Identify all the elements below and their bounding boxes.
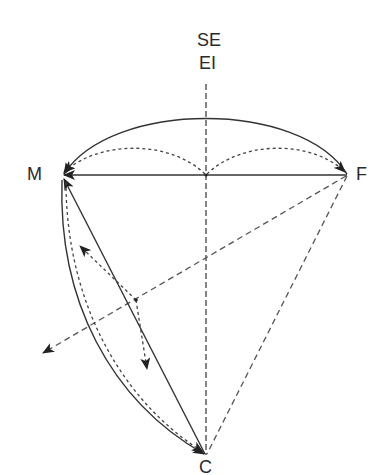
dotted-p-to-upper-left	[80, 246, 136, 300]
label-se: SE	[197, 31, 221, 49]
point-o	[204, 173, 207, 176]
dashed-f-to-c	[207, 176, 347, 454]
point-p	[134, 298, 138, 302]
label-c: C	[199, 458, 212, 475]
arc-m-to-c	[62, 180, 204, 454]
label-ei: EI	[199, 54, 216, 72]
dotted-arc-o-to-f	[207, 148, 345, 174]
label-f: F	[356, 165, 367, 183]
label-m: M	[27, 165, 42, 183]
dotted-p-to-lower	[136, 300, 147, 369]
diagram-canvas	[0, 0, 386, 475]
